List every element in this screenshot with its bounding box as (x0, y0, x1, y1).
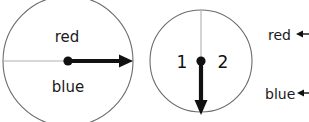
disc-left-group: red blue (3, 0, 133, 122)
diagram-svg: red blue 1 2 red blue (0, 0, 309, 122)
disc-right-center-dot (196, 56, 205, 65)
legend-label-red: red (268, 27, 291, 43)
disc-right-group: 1 2 (150, 10, 252, 115)
legend-item-red: red (268, 27, 309, 43)
disc-right-sector-1-label: 1 (177, 52, 188, 72)
legend-label-blue: blue (265, 86, 295, 102)
legend-arrowhead-left-blue-icon (297, 90, 304, 97)
legend-arrowhead-left-red-icon (296, 31, 303, 38)
disc-left-bottom-label: blue (52, 78, 84, 96)
legend-group: red blue (265, 27, 309, 102)
figure-canvas: red blue 1 2 red blue (0, 0, 309, 122)
disc-right-sector-2-label: 2 (218, 52, 229, 72)
disc-left-top-label: red (55, 28, 80, 46)
disc-left-center-dot (63, 56, 72, 65)
legend-item-blue: blue (265, 86, 309, 102)
